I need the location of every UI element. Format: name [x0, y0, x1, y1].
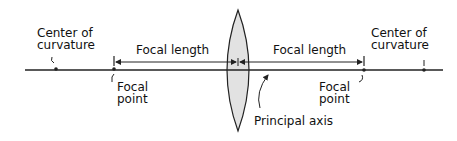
- focal-point-left-point: [112, 67, 116, 71]
- focal-point-left-label: Focalpoint: [117, 81, 148, 105]
- principal-axis-pointer: [259, 75, 268, 108]
- center-of-curvature-right-point: [422, 68, 426, 72]
- focal-point-right-point: [362, 68, 366, 72]
- lens-diagram: [0, 0, 457, 141]
- center-of-curvature-right-label: Center ofcurvature: [371, 27, 429, 51]
- center-of-curvature-left-point: [54, 67, 58, 71]
- focal-point-right-label: Focalpoint: [319, 81, 350, 105]
- focal-length-left-label: Focal length: [136, 44, 209, 56]
- focal-length-right-label: Focal length: [273, 44, 346, 56]
- principal-axis-label: Principal axis: [254, 115, 333, 127]
- center-of-curvature-left-label: Center ofcurvature: [37, 27, 95, 51]
